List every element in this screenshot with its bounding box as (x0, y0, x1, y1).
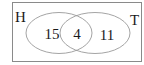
venn-diagram: H T 15 4 11 (0, 0, 144, 65)
set-t-label: T (130, 12, 139, 28)
t-only-count: 11 (100, 27, 114, 43)
intersection-count: 4 (73, 26, 81, 42)
set-h-label: H (15, 9, 26, 25)
h-only-count: 15 (45, 26, 60, 42)
